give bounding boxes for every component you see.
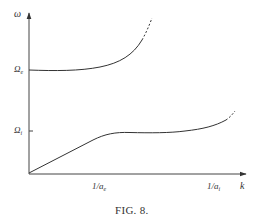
dispersion-diagram [0, 0, 261, 218]
lower-branch-dashed [226, 111, 235, 120]
upper-branch-dashed [142, 18, 152, 40]
inv-ae-subscript: e [104, 186, 107, 192]
omega-e-subscript: e [21, 69, 24, 75]
inv-ae-main: 1/a [92, 181, 104, 191]
inv-ai-main: 1/a [207, 181, 219, 191]
inv-ae-label: 1/ae [92, 182, 106, 192]
omega-i-label: Ωi [14, 126, 22, 136]
x-axis-label: k [240, 181, 244, 191]
omega-e-label: Ωe [14, 65, 23, 75]
upper-branch-curve [29, 40, 142, 71]
figure-caption: FIG. 8. [115, 205, 149, 216]
inv-ai-label: 1/ai [207, 182, 220, 192]
lower-branch-curve [29, 120, 226, 173]
inv-ai-subscript: i [219, 186, 221, 192]
y-axis-label: ω [14, 9, 21, 19]
omega-i-subscript: i [21, 130, 23, 136]
